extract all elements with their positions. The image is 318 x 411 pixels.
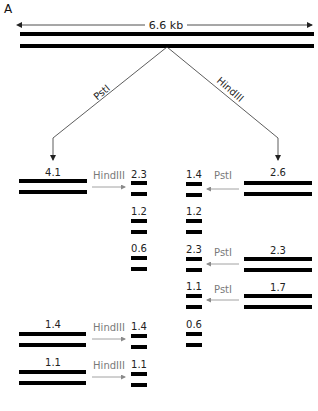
- enzyme-label: HindIII: [93, 170, 125, 181]
- product-strand-top: [131, 219, 147, 223]
- hindIII-branch-arrow-icon: [167, 47, 278, 160]
- product-strand-bottom: [186, 193, 202, 197]
- product-size-label: 1.1: [186, 281, 202, 292]
- fragment-strand-top: [244, 294, 312, 298]
- product-strand-top: [131, 181, 147, 185]
- product-size-label: 1.2: [131, 206, 147, 217]
- product-strand-bottom: [131, 192, 147, 196]
- right-fragment-2-3: 2.3 PstI 2.3: [186, 244, 312, 272]
- product-size-label: 0.6: [186, 319, 202, 330]
- left-branch-enzyme-label: PstI: [91, 82, 112, 102]
- fragment-strand-bottom: [244, 305, 312, 309]
- product-strand-top: [131, 256, 147, 260]
- left-fragment-1-4: 1.4 HindIII 1.4: [19, 319, 147, 349]
- product-size-label: 1.4: [186, 169, 202, 180]
- left-products-4-1: 2.3 1.2 0.6: [131, 169, 147, 271]
- diagram-svg: 6.6 kb PstI HindIII 4.1 HindIII 2.3: [0, 0, 318, 411]
- plasmid-bars: [20, 32, 314, 48]
- product-size-label: 1.1: [131, 359, 147, 370]
- fragment-size-label: 1.7: [270, 282, 286, 293]
- branch-lines: PstI HindIII: [53, 47, 278, 160]
- restriction-map-diagram: A 6.6 kb PstI: [0, 0, 318, 411]
- product-strand-bottom: [131, 345, 147, 349]
- product-strand-bottom: [186, 305, 202, 309]
- product-strand-bottom: [131, 230, 147, 234]
- product-strand-bottom: [186, 230, 202, 234]
- product-size-label: 0.6: [131, 243, 147, 254]
- enzyme-label: HindIII: [93, 360, 125, 371]
- left-fragment-4-1: 4.1: [19, 167, 87, 194]
- fragment-strand-bottom: [244, 268, 312, 272]
- left-digest-arrow-1: HindIII: [92, 170, 125, 187]
- product-strand-bottom: [186, 343, 202, 347]
- product-strand-top: [186, 332, 202, 336]
- enzyme-label: PstI: [214, 170, 232, 181]
- fragment-strand-top: [244, 181, 312, 185]
- product-strand-top: [186, 182, 202, 186]
- enzyme-label: HindIII: [93, 322, 125, 333]
- fragment-size-label: 2.6: [270, 167, 286, 178]
- product-strand-top: [186, 257, 202, 261]
- product-size-label: 2.3: [131, 169, 147, 180]
- fragment-strand-top: [19, 179, 87, 183]
- product-size-label: 1.4: [131, 321, 147, 332]
- fragment-size-label: 1.4: [45, 319, 61, 330]
- fragment-size-label: 4.1: [45, 167, 61, 178]
- product-strand-bottom: [186, 268, 202, 272]
- product-strand-top: [186, 294, 202, 298]
- plasmid-size-label: 6.6 kb: [149, 19, 183, 32]
- plasmid-size-dimension: 6.6 kb: [21, 19, 312, 32]
- right-fragment-2-6: 2.6 PstI: [207, 167, 312, 196]
- panel-label: A: [4, 2, 12, 16]
- enzyme-label: PstI: [214, 247, 232, 258]
- right-branch-enzyme-label: HindIII: [215, 75, 246, 104]
- product-strand-bottom: [131, 383, 147, 387]
- fragment-strand-bottom: [19, 381, 86, 385]
- fragment-size-label: 2.3: [270, 245, 286, 256]
- fragment-strand-top: [19, 370, 86, 374]
- product-size-label: 1.2: [186, 206, 202, 217]
- product-strand-top: [131, 372, 147, 376]
- left-fragment-1-1: 1.1 HindIII 1.1: [19, 357, 147, 387]
- fragment-strand-bottom: [19, 343, 86, 347]
- fragment-strand-bottom: [19, 190, 87, 194]
- enzyme-label: PstI: [214, 284, 232, 295]
- product-strand-top: [186, 219, 202, 223]
- right-fragment-1-7: 1.7 PstI 1.1 0.6: [186, 281, 312, 347]
- product-strand-top: [131, 334, 147, 338]
- right-products-2-6: 1.4 1.2: [186, 169, 202, 234]
- plasmid-strand-top: [20, 32, 314, 36]
- product-size-label: 2.3: [186, 244, 202, 255]
- fragment-strand-bottom: [244, 192, 312, 196]
- fragment-strand-top: [19, 332, 86, 336]
- product-strand-bottom: [131, 267, 147, 271]
- fragment-size-label: 1.1: [45, 357, 61, 368]
- pstI-branch-arrow-icon: [53, 47, 167, 160]
- fragment-strand-top: [244, 257, 312, 261]
